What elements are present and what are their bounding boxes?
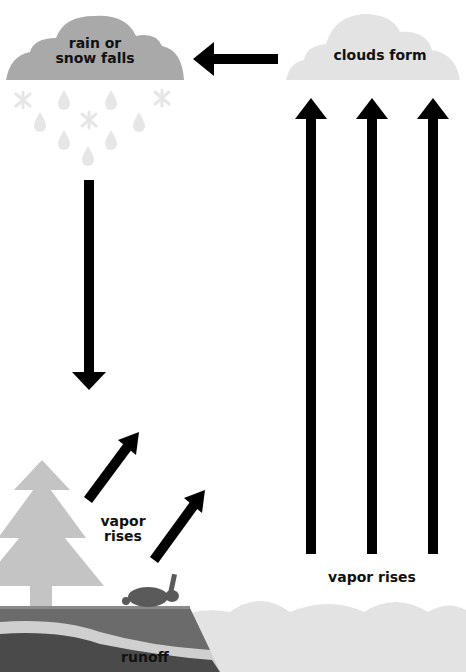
runoff-label: runoff [110, 650, 180, 665]
land-vapor-label-line1: vapor [88, 514, 158, 529]
ocean-vapor-label: vapor rises [312, 570, 432, 585]
precipitation-icon [16, 90, 169, 166]
arrow-down-icon [72, 180, 106, 390]
rain-cloud-label: rain or snow falls [40, 36, 150, 67]
rabbit-icon [122, 574, 179, 607]
arrow-left-icon [193, 42, 278, 76]
rain-cloud-label-line1: rain or [40, 36, 150, 51]
rain-cloud-label-line2: snow falls [40, 51, 150, 66]
arrow-up-icon [295, 98, 449, 554]
clouds-form-label: clouds form [310, 48, 450, 63]
land-vapor-label: vapor rises [88, 514, 158, 545]
land-vapor-label-line2: rises [88, 529, 158, 544]
